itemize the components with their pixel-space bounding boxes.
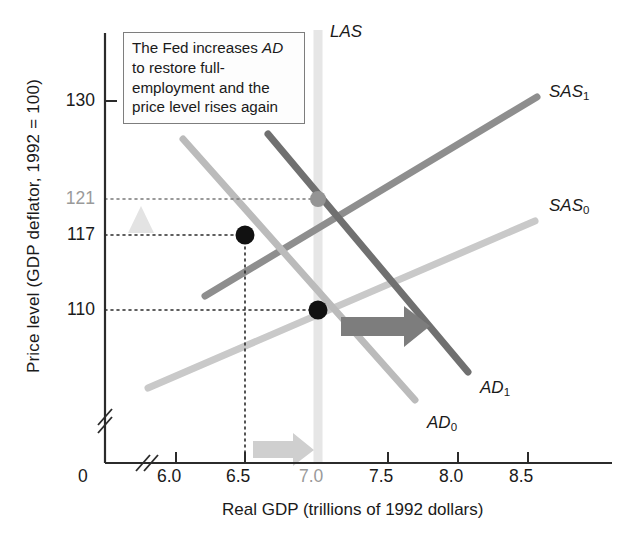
axis-break-marks [98, 409, 158, 471]
sas0-curve [148, 221, 535, 388]
x-tick-label-80: 8.0 [439, 466, 463, 487]
annotation-textbox: The Fed increases AD to restore full- em… [123, 32, 305, 124]
ad1-label: AD1 [480, 378, 510, 398]
ad1-label-sub: 1 [504, 386, 510, 398]
ad0-label-sub: 0 [451, 421, 457, 433]
equilibrium-point-121 [310, 191, 326, 207]
sas1-label-text: SAS [549, 82, 583, 101]
sas0-label: SAS0 [549, 196, 589, 216]
x-axis-title: Real GDP (trillions of 1992 dollars) [222, 500, 483, 520]
y-tick-label-121: 121 [40, 188, 95, 209]
x-tick-label-65: 6.5 [226, 466, 250, 487]
x-tick-label-70: 7.0 [299, 466, 323, 487]
annotation-line2: to restore full- [132, 59, 225, 76]
ad1-label-text: AD [480, 378, 504, 397]
y-tick-label-130: 130 [40, 90, 95, 111]
las-label: LAS [330, 22, 362, 42]
y-tick-label-117: 117 [40, 224, 95, 245]
chart-canvas [0, 0, 640, 536]
ad0-label-text: AD [427, 413, 451, 432]
equilibrium-point-110 [309, 301, 328, 320]
origin-label: 0 [78, 466, 88, 487]
gdp-shift-arrow [253, 433, 314, 466]
annotation-line3: employment and the [132, 79, 270, 96]
equilibrium-point-117 [236, 226, 255, 245]
sas1-curve [205, 97, 537, 296]
annotation-line1-text: The Fed increases [132, 39, 262, 56]
ad0-label: AD0 [427, 413, 457, 433]
x-tick-marks [176, 452, 528, 463]
sas0-label-sub: 0 [583, 204, 589, 216]
y-tick-label-110: 110 [40, 299, 95, 320]
x-tick-label-60: 6.0 [157, 466, 181, 487]
x-tick-label-85: 8.5 [509, 466, 533, 487]
annotation-line4: price level rises again [132, 98, 278, 115]
sas1-label: SAS1 [549, 82, 589, 102]
price-rise-arrow [128, 206, 154, 233]
sas1-label-sub: 1 [583, 90, 589, 102]
annotation-line1-emph: AD [262, 39, 283, 56]
sas0-label-text: SAS [549, 196, 583, 215]
ad1-curve [268, 134, 468, 372]
x-tick-label-75: 7.5 [369, 466, 393, 487]
